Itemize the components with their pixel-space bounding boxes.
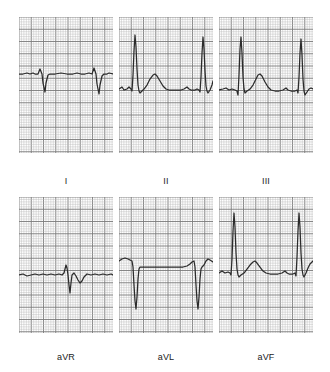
lead-label-lead-avl: aVL [146, 352, 186, 362]
ecg-trace [219, 197, 313, 333]
ecg-panel-lead-ii [119, 17, 213, 153]
ecg-trace [19, 197, 113, 333]
ecg-panel-lead-i [19, 17, 113, 153]
ecg-panel-lead-iii [219, 17, 313, 153]
lead-label-lead-avr: aVR [46, 352, 86, 362]
lead-label-lead-avf: aVF [246, 352, 286, 362]
lead-label-lead-i: I [46, 176, 86, 186]
ecg-trace [119, 197, 213, 333]
lead-label-lead-iii: III [246, 176, 286, 186]
ecg-trace [119, 17, 213, 153]
ecg-panel-lead-avl [119, 197, 213, 333]
ecg-trace [219, 17, 313, 153]
ecg-panel-lead-avr [19, 197, 113, 333]
ecg-panel-lead-avf [219, 197, 313, 333]
ecg-sheet: IIIIIIaVRaVLaVF [0, 0, 330, 372]
ecg-trace [19, 17, 113, 153]
lead-label-lead-ii: II [146, 176, 186, 186]
